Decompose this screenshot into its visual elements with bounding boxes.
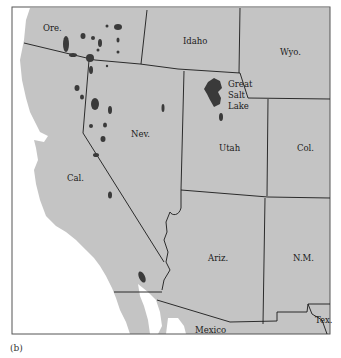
label-mexico: Mexico <box>195 325 226 335</box>
label-utah: Utah <box>219 143 241 153</box>
label-nevada: Nev. <box>131 129 150 139</box>
label-wyoming: Wyo. <box>280 47 301 57</box>
label-great-salt-lake-1: Great <box>228 79 253 89</box>
map-figure: Ore. Idaho Wyo. Great Salt Lake Nev. Uta… <box>0 0 341 358</box>
label-arizona: Ariz. <box>207 253 228 263</box>
figure-caption: (b) <box>10 343 23 353</box>
label-new-mexico: N.M. <box>293 253 314 263</box>
label-idaho: Idaho <box>183 36 207 46</box>
label-oregon: Ore. <box>43 23 62 33</box>
label-great-salt-lake-3: Lake <box>228 101 249 111</box>
label-colorado: Col. <box>297 143 314 153</box>
label-texas: Tex. <box>315 315 333 325</box>
label-california: Cal. <box>67 173 84 183</box>
label-great-salt-lake-2: Salt <box>228 90 246 100</box>
